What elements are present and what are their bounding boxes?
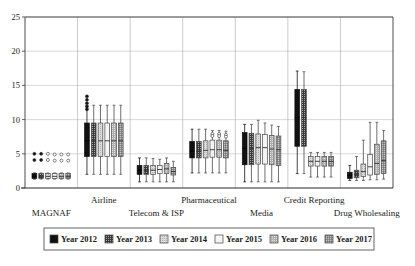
box-plot-item [52, 153, 57, 179]
box-plot-item [118, 105, 123, 174]
box-rect [256, 134, 261, 164]
legend-swatch[interactable] [160, 235, 168, 243]
box-plot-item [210, 131, 215, 173]
box-plot-item [203, 129, 208, 173]
y-axis-tick-label: 20 [12, 46, 21, 56]
x-axis-group-label: MAGNAF [32, 208, 71, 218]
legend-swatch[interactable] [270, 235, 278, 243]
box-plot-item [137, 158, 142, 182]
box-plot-item [112, 105, 117, 174]
x-axis-group-label: Pharmaceutical [181, 195, 237, 205]
y-axis-tick-label: 25 [12, 12, 21, 22]
legend-swatch[interactable] [215, 235, 223, 243]
x-axis-group-label: Airline [91, 195, 117, 205]
box-plot-item [224, 131, 229, 173]
outlier-point [218, 135, 221, 138]
outlier-point [67, 153, 70, 156]
outlier-point [211, 135, 214, 138]
panel-dividers [78, 17, 341, 188]
box-plot-item [144, 158, 149, 182]
outlier-point [85, 98, 88, 101]
outlier-point [67, 159, 70, 162]
y-axis-tick-labels: 0510152025 [12, 12, 26, 193]
x-axis-group-label: Media [250, 208, 273, 218]
box-plot-item [32, 152, 37, 179]
y-axis-tick-label: 0 [16, 183, 20, 193]
x-axis-group-labels: MAGNAFAirlineTelecom & ISPPharmaceutical… [32, 195, 400, 218]
box-plot-item [190, 129, 195, 173]
box-rect [196, 141, 201, 157]
y-axis-tick-label: 10 [12, 115, 21, 125]
axes [21, 17, 393, 188]
box-rect [249, 133, 254, 164]
box-rect [98, 123, 103, 157]
box-rect [217, 140, 222, 157]
legend-label[interactable]: Year 2013 [116, 234, 152, 244]
box-plot-item [295, 71, 300, 174]
box-plot-item [164, 158, 169, 182]
box-plot-item [157, 159, 162, 182]
outlier-point [33, 152, 36, 155]
x-axis-group-label: Drug Wholesaling [334, 208, 401, 218]
outlier-point [46, 152, 49, 155]
box-rect [91, 123, 96, 157]
box-plot-series [32, 71, 386, 182]
y-axis-tick-label: 15 [12, 80, 21, 90]
outlier-point [85, 108, 88, 111]
legend-swatch[interactable] [105, 235, 113, 243]
outlier-point [40, 152, 43, 155]
box-plot-item [171, 161, 176, 182]
box-plot-item [85, 95, 90, 174]
box-plot-item [59, 153, 64, 179]
legend-label[interactable]: Year 2014 [171, 234, 208, 244]
box-rect [203, 141, 208, 158]
box-plot-item [269, 125, 274, 182]
box-plot-item [249, 124, 254, 181]
box-plot-item [91, 105, 96, 174]
outlier-point [33, 158, 36, 161]
outlier-point [46, 158, 49, 161]
legend-swatch[interactable] [50, 235, 58, 243]
box-rect [368, 154, 373, 175]
outlier-point [60, 153, 63, 156]
box-rect [112, 123, 117, 157]
chart-legend: Year 2012Year 2013Year 2014Year 2015Year… [44, 228, 374, 250]
outlier-point [53, 159, 56, 162]
legend-label[interactable]: Year 2016 [281, 234, 317, 244]
box-plot-item [105, 105, 110, 174]
box-rect [269, 135, 274, 164]
box-rect [85, 123, 90, 157]
box-rect [381, 141, 386, 174]
box-plot-item [381, 131, 386, 180]
box-rect [263, 135, 268, 164]
box-plot-item [374, 122, 379, 179]
box-plot-item [39, 152, 44, 179]
outlier-point [85, 102, 88, 105]
legend-label[interactable]: Year 2017 [336, 234, 373, 244]
box-plot-item [263, 123, 268, 182]
box-plot-item [347, 165, 352, 180]
outlier-point [53, 153, 56, 156]
legend-label[interactable]: Year 2015 [226, 234, 262, 244]
box-plot-item [315, 152, 320, 177]
box-plot-item [276, 126, 281, 181]
box-rect [276, 136, 281, 165]
box-rect [118, 123, 123, 157]
chart-canvas: 0510152025 MAGNAFAirlineTelecom & ISPPha… [0, 0, 415, 266]
boxplot-figure: 0510152025 MAGNAFAirlineTelecom & ISPPha… [0, 0, 415, 266]
box-plot-item [302, 72, 307, 174]
outlier-point [60, 159, 63, 162]
x-axis-group-label: Telecom & ISP [129, 208, 184, 218]
legend-swatch[interactable] [325, 235, 333, 243]
legend-label[interactable]: Year 2012 [61, 234, 97, 244]
box-rect [190, 141, 195, 157]
box-rect [361, 164, 366, 176]
box-plot-item [308, 152, 313, 177]
outlier-point [224, 135, 227, 138]
box-rect [210, 140, 215, 157]
grid-lines [25, 17, 393, 154]
box-plot-item [98, 105, 103, 174]
box-plot-item [217, 131, 222, 173]
box-plot-item [151, 159, 156, 182]
box-plot-item [46, 152, 51, 179]
